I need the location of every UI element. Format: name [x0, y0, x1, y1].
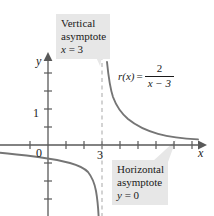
curve-left-branch	[0, 153, 99, 216]
vertical-callout-equation: x = 3	[61, 43, 106, 56]
y-axis-label: y	[36, 54, 41, 69]
formula-denominator: x − 3	[145, 78, 174, 90]
vertical-callout-eq-sign: =	[66, 43, 78, 55]
horizontal-callout-eq-sign: =	[122, 189, 134, 201]
formula-numerator: 2	[154, 63, 166, 75]
x-axis-label: x	[198, 146, 203, 161]
formula-equals-sign: =	[137, 70, 143, 82]
tick-label-y-one: 1	[33, 106, 39, 121]
vertical-asymptote-callout: Vertical asymptote x = 3	[56, 14, 110, 59]
horizontal-callout-line1: Horizontal	[117, 163, 164, 176]
tick-label-origin: 0	[36, 146, 42, 161]
formula-function-name: r(x)	[118, 70, 135, 82]
formula-fraction: 2 x − 3	[145, 63, 174, 89]
vertical-callout-eq-rhs: 3	[78, 43, 84, 55]
function-formula: r(x) = 2 x − 3	[118, 63, 174, 89]
tick-label-x-three: 3	[97, 148, 103, 163]
horizontal-asymptote-callout: Horizontal asymptote y = 0	[112, 160, 168, 205]
vertical-callout-line2: asymptote	[61, 30, 106, 43]
horizontal-callout-line2: asymptote	[117, 176, 164, 189]
horizontal-callout-equation: y = 0	[117, 189, 164, 202]
y-axis-arrowhead	[44, 52, 53, 61]
rational-function-graph-figure: Vertical asymptote x = 3 Horizontal asym…	[0, 0, 214, 216]
vertical-callout-line1: Vertical	[61, 17, 106, 30]
horizontal-callout-eq-rhs: 0	[134, 189, 140, 201]
